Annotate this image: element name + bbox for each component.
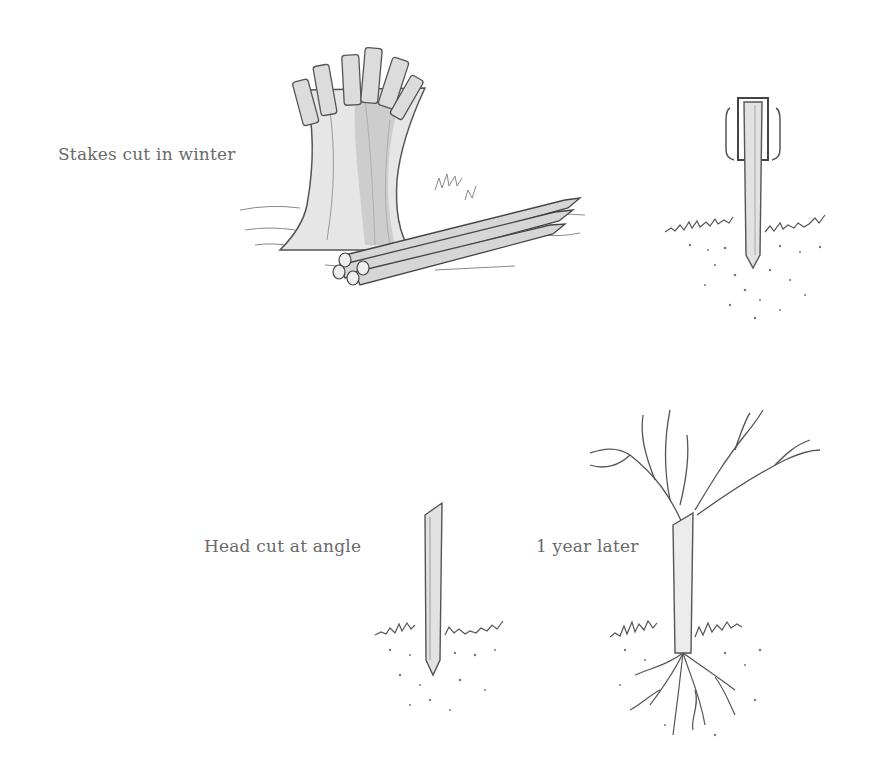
angled-stake-illustration	[370, 495, 540, 725]
post-driver-illustration	[660, 90, 850, 330]
label-stakes-cut-in-winter: Stakes cut in winter	[58, 144, 236, 164]
pollarded-stump-illustration	[235, 40, 605, 290]
label-head-cut-at-angle: Head cut at angle	[204, 536, 361, 556]
rooted-tree-illustration	[585, 405, 830, 745]
